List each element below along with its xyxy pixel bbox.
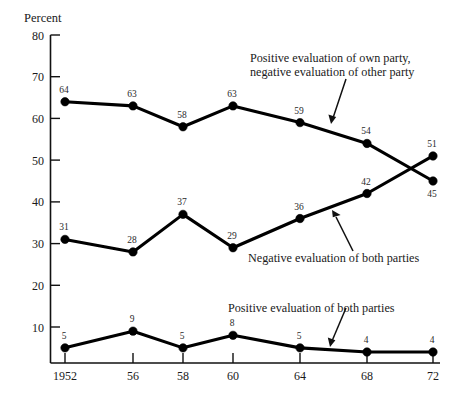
x-axis-ticks: [65, 353, 433, 363]
data-point-marker[interactable]: [61, 344, 69, 352]
x-tick-label: 64: [294, 369, 306, 383]
annotation-own-party-arrow-line: [333, 79, 346, 118]
annotation-negative-both: Negative evaluation of both parties: [248, 210, 420, 265]
data-point-marker[interactable]: [363, 348, 371, 356]
annotation-negative-both-arrow-line: [336, 217, 353, 251]
data-point-label: 8: [230, 318, 235, 328]
data-point-label: 42: [361, 177, 371, 187]
data-point-label: 5: [297, 331, 302, 341]
data-point-marker[interactable]: [229, 102, 237, 110]
y-tick-label: 70: [32, 70, 44, 84]
data-point-label: 51: [427, 139, 437, 149]
data-point-marker[interactable]: [229, 244, 237, 252]
x-tick-label: 60: [227, 369, 239, 383]
y-tick-label: 80: [32, 29, 44, 43]
data-point-label: 63: [127, 89, 137, 99]
data-point-marker[interactable]: [179, 344, 187, 352]
series-line-1: [65, 102, 433, 181]
data-point-marker[interactable]: [296, 118, 304, 126]
data-point-label: 45: [427, 189, 437, 199]
data-point-marker[interactable]: [429, 348, 437, 356]
y-tick-label: 40: [32, 195, 44, 209]
x-tick-label: 1952: [53, 369, 77, 383]
annotation-own-party-line1: Positive evaluation of own party,: [250, 51, 411, 65]
x-tick-label: 68: [361, 369, 373, 383]
y-axis-tick-labels: 80 70 60 50 40 30 20 10: [32, 29, 44, 335]
data-point-label: 28: [127, 235, 137, 245]
annotation-own-party: Positive evaluation of own party, negati…: [250, 51, 415, 124]
data-point-label: 4: [364, 335, 369, 345]
series-layer: [61, 98, 437, 357]
data-point-marker[interactable]: [61, 98, 69, 106]
annotation-positive-both-line1: Positive evaluation of both parties: [228, 301, 395, 315]
annotation-own-party-line2: negative evaluation of other party: [250, 65, 415, 79]
y-tick-label: 50: [32, 154, 44, 168]
data-point-marker[interactable]: [61, 235, 69, 243]
x-axis-tick-labels: 1952 56 58 60 64 68 72: [53, 369, 439, 383]
annotation-negative-both-arrow-head: [332, 210, 341, 217]
data-point-marker[interactable]: [363, 139, 371, 147]
data-point-marker[interactable]: [363, 189, 371, 197]
data-point-label: 37: [177, 197, 187, 207]
data-point-marker[interactable]: [129, 248, 137, 256]
y-axis-ticks: [51, 35, 61, 327]
data-point-label: 5: [62, 331, 67, 341]
chart-page: Percent 80 70 60 50 40 30 20 10: [0, 0, 457, 400]
data-point-marker[interactable]: [129, 102, 137, 110]
data-point-marker[interactable]: [179, 210, 187, 218]
annotation-own-party-arrow-head: [328, 115, 336, 124]
data-point-marker[interactable]: [429, 152, 437, 160]
x-tick-label: 58: [177, 369, 189, 383]
data-point-label: 59: [294, 106, 304, 116]
data-point-marker[interactable]: [179, 123, 187, 131]
data-point-marker[interactable]: [429, 177, 437, 185]
annotation-negative-both-line1: Negative evaluation of both parties: [248, 251, 420, 265]
x-tick-label: 72: [427, 369, 439, 383]
x-tick-label: 56: [127, 369, 139, 383]
data-point-label: 5: [180, 331, 185, 341]
series-line-2: [65, 156, 433, 252]
data-point-marker[interactable]: [296, 344, 304, 352]
y-tick-label: 10: [32, 321, 44, 335]
series-line-3: [65, 331, 433, 352]
data-point-label: 29: [227, 231, 237, 241]
line-chart: Percent 80 70 60 50 40 30 20 10: [0, 0, 457, 400]
data-point-marker[interactable]: [229, 331, 237, 339]
data-point-label: 54: [361, 126, 371, 136]
y-tick-label: 30: [32, 237, 44, 251]
data-point-label: 63: [227, 89, 237, 99]
y-axis-title: Percent: [24, 11, 62, 25]
data-point-label: 4: [430, 335, 435, 345]
data-point-label: 9: [130, 314, 135, 324]
data-point-label: 64: [59, 85, 69, 95]
data-point-label: 58: [177, 110, 187, 120]
data-point-label: 36: [294, 202, 304, 212]
data-point-marker[interactable]: [129, 327, 137, 335]
data-point-marker[interactable]: [296, 214, 304, 222]
data-point-label: 31: [59, 222, 69, 232]
annotation-positive-both-arrow-head: [328, 338, 336, 348]
y-tick-label: 20: [32, 279, 44, 293]
y-tick-label: 60: [32, 112, 44, 126]
